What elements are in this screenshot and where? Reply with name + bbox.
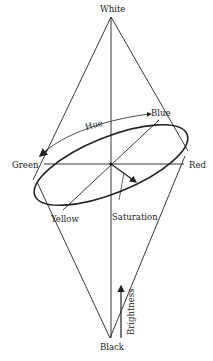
label-hue: Hue xyxy=(84,118,104,132)
saturation-arrow xyxy=(111,164,136,182)
label-green: Green xyxy=(12,160,39,170)
label-brightness: Brightness xyxy=(126,288,136,335)
saturation-leader xyxy=(119,173,124,200)
label-red: Red xyxy=(189,160,206,170)
cone-outline xyxy=(33,17,188,338)
label-yellow: Yellow xyxy=(50,214,79,224)
label-blue: Blue xyxy=(151,108,170,118)
label-white: White xyxy=(100,4,125,14)
hsb-double-cone-diagram: White Blue Hue Green Red Yellow Saturati… xyxy=(0,0,213,361)
label-black: Black xyxy=(100,342,125,352)
label-saturation: Saturation xyxy=(112,212,158,222)
